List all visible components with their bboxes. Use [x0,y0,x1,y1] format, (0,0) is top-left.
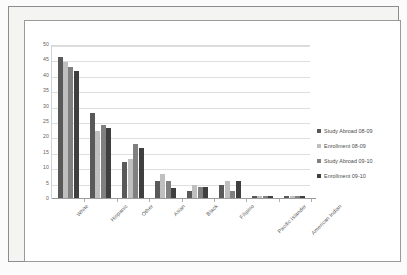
legend-item[interactable]: Enrollment 08-09 [317,139,399,152]
x-axis-category-label: Asian [172,203,186,217]
y-axis-tick-labels: 05101520253035404550 [31,45,49,199]
bar [166,181,171,199]
legend-item[interactable]: Study Abroad 09-10 [317,154,399,167]
bar-group [84,46,116,199]
legend-swatch-icon [317,174,321,178]
bar [225,181,230,199]
chart-legend: Study Abroad 08-09Enrollment 08-09Study … [317,124,399,184]
bar [106,128,111,199]
scanned-page: 05101520253035404550 WhiteHispanicOtherA… [0,0,407,275]
y-axis-tick-label: 40 [43,73,49,78]
y-axis-tick-label: 15 [43,150,49,155]
bar [101,125,106,199]
y-axis-tick-label: 30 [43,104,49,109]
bar-group [246,46,278,199]
bar [155,181,160,199]
bar [63,62,68,199]
bar-group [279,46,311,199]
x-axis-category-labels: WhiteHispanicOtherAsianBlackFilipinoPaci… [51,199,310,261]
legend-item[interactable]: Enrollment 09-10 [317,169,399,182]
bar-group [149,46,181,199]
page-outer-frame: 05101520253035404550 WhiteHispanicOtherA… [8,6,399,262]
y-axis-tick-label: 45 [43,58,49,63]
bar [68,67,73,199]
x-axis-category-label: Pacific Islander [276,203,307,234]
bar [74,71,79,199]
bar [133,144,138,199]
y-axis-tick-label: 10 [43,166,49,171]
plot-area [51,45,310,199]
bar [160,174,165,199]
legend-item[interactable]: Study Abroad 08-09 [317,124,399,137]
y-axis-tick-label: 5 [46,181,49,186]
bar [90,113,95,199]
y-axis-tick-label: 50 [43,42,49,47]
legend-swatch-icon [317,159,321,163]
y-axis-tick-label: 0 [46,196,49,201]
x-axis-category-label: Other [140,203,154,217]
legend-label: Study Abroad 09-10 [324,158,373,164]
bar-group [117,46,149,199]
bar-group [52,46,84,199]
bars-layer [52,46,310,199]
bar [122,162,127,199]
x-axis-tick-mark [311,199,312,202]
x-axis-category-label: American Indian [310,203,343,236]
bar-group [214,46,246,199]
y-axis-tick-label: 20 [43,135,49,140]
legend-label: Study Abroad 08-09 [324,128,373,134]
bar [219,185,224,199]
legend-label: Enrollment 09-10 [324,173,366,179]
x-axis-category-label: Black [205,203,219,217]
bar [128,159,133,199]
y-axis-tick-label: 35 [43,89,49,94]
legend-swatch-icon [317,144,321,148]
bar [95,131,100,199]
bar-group [182,46,214,199]
x-axis-category-label: Filipino [238,203,255,220]
legend-swatch-icon [317,129,321,133]
y-axis-tick-label: 25 [43,119,49,124]
bar [192,185,197,199]
bar [236,181,241,199]
bar [58,57,63,199]
bar [139,148,144,199]
x-axis-category-label: Hispanic [110,203,129,222]
chart-plot-wrapper: 05101520253035404550 WhiteHispanicOtherA… [25,21,402,263]
legend-label: Enrollment 08-09 [324,143,366,149]
chart-object-frame: 05101520253035404550 WhiteHispanicOtherA… [24,20,401,262]
x-axis-category-label: White [75,203,89,217]
